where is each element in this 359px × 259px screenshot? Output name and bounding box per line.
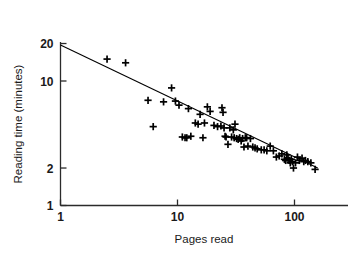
y-tick-label-2: 2: [47, 162, 54, 176]
x-tick-label-1: 1: [57, 210, 64, 224]
scatter-chart: 121020 110100 Pages read Reading time (m…: [0, 0, 359, 259]
y-tick-label-10: 10: [40, 75, 54, 89]
y-tick-label-20: 20: [40, 37, 54, 51]
x-axis-title: Pages read: [175, 233, 234, 245]
x-tick-label-10: 10: [171, 210, 185, 224]
y-tick-label-1: 1: [47, 199, 54, 213]
y-axis-title: Reading time (minutes): [12, 64, 24, 183]
x-tick-label-100: 100: [284, 210, 304, 224]
